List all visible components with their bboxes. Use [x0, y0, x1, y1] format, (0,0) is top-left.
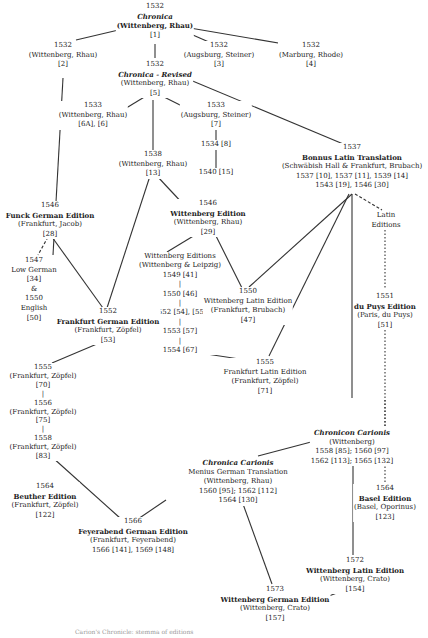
- node-place: (Frankfurt, Zöpfel): [10, 443, 77, 452]
- node-funck-german-edition: 1546 Funck German Edition (Frankfurt, Ja…: [5, 201, 96, 239]
- node-year: 1538: [119, 150, 187, 160]
- node-ref: [70]: [10, 381, 77, 390]
- node-1532-chronica-revised: 1532 Chronica - Revised (Wittenberg, Rha…: [117, 60, 193, 98]
- node-ref: [29]: [170, 228, 245, 238]
- node-year: 1532: [184, 41, 254, 51]
- node-year: 1564: [12, 482, 79, 492]
- node-year: 1532: [279, 41, 343, 51]
- node-ref: [157]: [221, 614, 330, 624]
- node-place: (Marburg, Rhode): [279, 51, 343, 61]
- node-ref: [6A], [6]: [59, 120, 127, 130]
- node-ref: [53]: [57, 336, 160, 346]
- node-title: Bonnus Latin Translation: [282, 153, 422, 163]
- node-ref: [83]: [10, 452, 77, 461]
- node-amp: &: [11, 285, 56, 295]
- node-title: Feyerabend German Edition: [78, 527, 188, 537]
- node-year: 1572: [306, 556, 404, 566]
- edge-menius-wg1573: [243, 504, 272, 584]
- node-title: Basel Edition: [354, 494, 416, 504]
- node-wittenberg-edition-1546: 1546 Wittenberg Edition (Wittenberg, Rha…: [169, 199, 246, 237]
- node-year-2: 1550: [11, 294, 56, 304]
- node-title: Wittenberg Editions: [139, 252, 221, 261]
- node-year: 1558: [10, 434, 77, 443]
- edge-bonnus-latin-editions: [355, 194, 382, 210]
- node-year-ref: 1534 [8]: [201, 140, 231, 150]
- node-ref: [34]: [11, 275, 56, 285]
- node-refs-1: 1537 [10], 1537 [11], 1539 [14]: [282, 172, 422, 182]
- node-place: (Frankfurt, Zöpfel): [10, 372, 77, 381]
- node-label-1: Latin: [371, 211, 400, 221]
- node-year: 1532: [29, 41, 97, 51]
- node-place: (Wittenberg, Rhau): [188, 477, 287, 487]
- node-refs-2: 1543 [19], 1546 [30]: [282, 181, 422, 191]
- node-place: (Wittenberg, Rhau): [118, 79, 192, 89]
- node-place: (Wittenberg, Rhau): [170, 218, 245, 228]
- node-label-2: Editions: [371, 221, 400, 231]
- node-1532-wittenberg-2: 1532 (Wittenberg, Rhau) [2]: [28, 41, 98, 70]
- node-basel-edition: 1564 Basel Edition (Basel, Oporinus) [12…: [353, 484, 417, 522]
- node-ref: [5]: [118, 89, 192, 99]
- node-ref: [7]: [181, 120, 251, 130]
- node-place: (Frankfurt, Zöpfel): [57, 326, 160, 336]
- node-place: (Paris, du Puys): [354, 311, 416, 321]
- node-1538-wittenberg-13: 1538 (Wittenberg, Rhau) [13]: [118, 150, 188, 179]
- node-du-puys-edition: 1551 du Puys Edition (Paris, du Puys) [5…: [353, 292, 417, 330]
- node-year: 1546: [170, 199, 245, 209]
- node-place: (Frankfurt, Zöpfel): [224, 377, 307, 387]
- node-1533-wittenberg-6: 1533 (Wittenberg, Rhau) [6A], [6]: [58, 101, 128, 130]
- node-wittenberg-german-1573: 1573 Wittenberg German Edition (Wittenbe…: [220, 585, 331, 623]
- node-place: (Wittenberg, Rhau): [117, 21, 193, 31]
- node-place: (Wittenberg, Crato): [221, 604, 330, 614]
- node-ref: [123]: [354, 513, 416, 523]
- node-year: 1547: [11, 256, 56, 266]
- edge-funck-lowgerman: [38, 237, 48, 255]
- node-ref: [2]: [29, 60, 97, 70]
- node-title: Frankfurt Latin Edition: [224, 368, 307, 378]
- node-year: 1546: [6, 201, 95, 211]
- node-year: 1573: [221, 585, 330, 595]
- edge-bonnus-frankfurt-latin: [269, 194, 349, 356]
- node-ref: [75]: [10, 416, 77, 425]
- node-place: (Augsburg, Steiner): [184, 51, 254, 61]
- node-refs-1: 1560 [95]; 1562 [112]: [188, 487, 287, 497]
- node-place: (Augsburg, Steiner): [181, 111, 251, 121]
- node-year: 1555: [224, 358, 307, 368]
- node-ref: [4]: [279, 60, 343, 70]
- node-chronicon-carionis: Chronicon Carionis (Wittenberg) 1558 [85…: [310, 428, 394, 466]
- node-title: Wittenberg Latin Edition: [204, 297, 292, 307]
- node-year: 1533: [59, 101, 127, 111]
- node-year: 1537: [282, 143, 422, 153]
- node-title: Chronica - Revised: [118, 70, 192, 80]
- node-title: Chronicon Carionis: [311, 428, 393, 438]
- node-year-ref: 1540 [15]: [199, 168, 233, 178]
- node-frankfurt-german-edition: 1552 Frankfurt German Edition (Frankfurt…: [56, 307, 161, 345]
- node-place: (Frankfurt, Jacob): [6, 220, 95, 230]
- node-menius-german-translation: Chronica Carionis Menius German Translat…: [187, 458, 288, 506]
- node-item: 1554 [67]: [139, 346, 221, 355]
- node-subtitle: Menius German Translation: [188, 468, 287, 478]
- node-place: (Wittenberg, Crato): [306, 575, 404, 585]
- node-latin-editions: Latin Editions: [370, 211, 401, 230]
- node-place: (Wittenberg, Rhau): [119, 160, 187, 170]
- node-place: (Schwäbish Hall & Frankfurt, Brubach): [282, 162, 422, 172]
- node-title: Wittenberg Latin Edition: [306, 566, 404, 576]
- node-year: 1556: [10, 399, 77, 408]
- node-year: 1532: [118, 60, 192, 70]
- node-refs-2: 1562 [113]; 1565 [132]: [311, 457, 393, 467]
- figure-caption: Carion's Chronicle: stemma of editions: [75, 628, 193, 635]
- node-ref: [71]: [224, 387, 307, 397]
- node-ref: [13]: [119, 169, 187, 179]
- node-ref: [3]: [184, 60, 254, 70]
- node-frankfurt-latin-edition: 1555 Frankfurt Latin Edition (Frankfurt,…: [223, 358, 308, 396]
- node-year: 1555: [10, 363, 77, 372]
- node-title: du Puys Edition: [354, 302, 416, 312]
- node-sep: |: [10, 390, 77, 399]
- node-place: (Frankfurt, Brubach): [204, 306, 292, 316]
- node-item: 1549 [41]: [139, 271, 221, 280]
- node-place: (Frankfurt, Feyerabend): [78, 536, 188, 546]
- node-title: Chronica Carionis: [188, 458, 287, 468]
- node-feyerabend-german-edition: 1566 Feyerabend German Edition (Frankfur…: [77, 517, 189, 555]
- node-place: (Wittenberg, Rhau): [29, 51, 97, 61]
- node-ref: [47]: [204, 316, 292, 326]
- node-place: (Frankfurt, Zöpfel): [12, 501, 79, 511]
